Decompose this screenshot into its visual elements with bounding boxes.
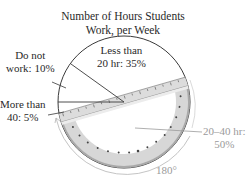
label-line: 40: 5% bbox=[0, 111, 46, 124]
arrowhead-icon bbox=[55, 118, 60, 123]
label-more-than-40: More than 40: 5% bbox=[0, 98, 46, 124]
label-line: 20 hr: 35% bbox=[97, 57, 146, 70]
label-line: More than bbox=[0, 98, 46, 111]
angle-annotation: 180° bbox=[156, 164, 177, 177]
label-20-40: 20–40 hr: 50% bbox=[203, 125, 245, 151]
label-do-not-work: Do not work: 10% bbox=[6, 49, 55, 75]
label-line: 20–40 hr: bbox=[203, 125, 245, 138]
label-line: Do not bbox=[6, 49, 55, 62]
label-less-than-20: Less than 20 hr: 35% bbox=[97, 44, 146, 70]
label-line: Less than bbox=[97, 44, 146, 57]
label-line: work: 10% bbox=[6, 62, 55, 75]
label-line: 50% bbox=[203, 138, 245, 151]
pie-chart bbox=[0, 0, 246, 179]
